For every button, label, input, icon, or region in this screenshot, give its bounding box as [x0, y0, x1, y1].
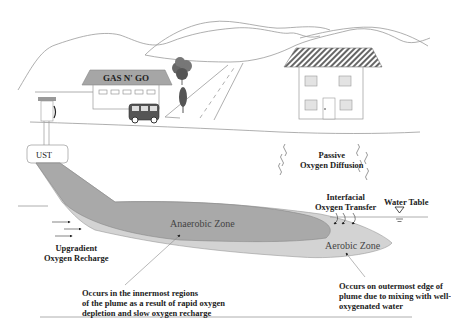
- aerobic-note: Occurs on outermost edge of plume due to…: [339, 281, 451, 311]
- gas-pump: [38, 97, 56, 145]
- aerobic-note-line2: plume due to mixing with well-: [339, 291, 451, 301]
- passive-diffusion-label: Passive Oxygen Diffusion: [300, 150, 364, 170]
- trees: [172, 57, 192, 113]
- water-table-label: Water Table: [384, 197, 428, 207]
- ust-label: UST: [36, 150, 52, 160]
- house: [284, 48, 382, 119]
- passive-diffusion-line2: Oxygen Diffusion: [300, 160, 364, 170]
- anaerobic-note-line1: Occurs in the innermost regions: [82, 288, 225, 298]
- aerobic-note-line3: oxygenated water: [339, 301, 451, 311]
- interfacial-transfer-label: Interfacial Oxygen Transfer: [315, 192, 376, 212]
- upgradient-line1: Upgradient: [44, 243, 108, 253]
- upgradient-line2: Oxygen Recharge: [44, 253, 108, 263]
- van: [129, 104, 159, 123]
- water-table-icon: [395, 207, 404, 222]
- upgradient-arrows: [52, 222, 81, 236]
- anaerobic-note-line2: of the plume as a result of rapid oxygen: [82, 298, 225, 308]
- gas-station-sign: GAS N' GO: [103, 73, 149, 83]
- anaerobic-zone: [36, 163, 330, 242]
- interfacial-line2: Oxygen Transfer: [315, 202, 376, 212]
- aerobic-note-line1: Occurs on outermost edge of: [339, 281, 451, 291]
- passive-diffusion-line1: Passive: [300, 150, 364, 160]
- upgradient-recharge-label: Upgradient Oxygen Recharge: [44, 243, 108, 263]
- interfacial-line1: Interfacial: [315, 192, 376, 202]
- aerobic-zone-label: Aerobic Zone: [325, 241, 380, 251]
- anaerobic-note: Occurs in the innermost regions of the p…: [82, 288, 225, 318]
- anaerobic-note-line3: depletion and slow oxygen recharge: [82, 308, 225, 318]
- anaerobic-zone-label: Anaerobic Zone: [170, 219, 235, 229]
